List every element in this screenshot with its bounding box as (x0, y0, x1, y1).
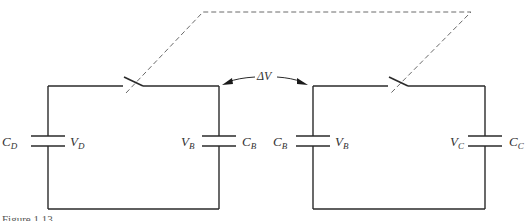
label-vc-sub: C (458, 141, 464, 151)
label-cb-left-sub: B (251, 141, 257, 151)
label-cb-left: CB (242, 135, 256, 151)
label-cc: CC (509, 135, 524, 151)
label-vd-symbol: V (70, 134, 78, 149)
label-vb-right-symbol: V (335, 134, 343, 149)
label-cb-right-sub: B (282, 141, 288, 151)
label-vd: VD (70, 135, 84, 151)
label-vc-symbol: V (450, 134, 458, 149)
label-vc: VC (450, 135, 464, 151)
label-vb-left-symbol: V (181, 134, 189, 149)
label-cb-left-symbol: C (242, 134, 251, 149)
label-cd-sub: D (11, 141, 18, 151)
delta-v-arrowhead-left-icon (222, 78, 233, 85)
figure-caption: Figure 1.13 (2, 214, 53, 221)
label-cc-sub: C (518, 141, 524, 151)
left-circuit (31, 77, 236, 209)
label-cb-right: CB (273, 135, 287, 151)
label-cc-symbol: C (509, 134, 518, 149)
label-vd-sub: D (78, 141, 85, 151)
label-vb-right-sub: B (343, 141, 349, 151)
label-vb-left: VB (181, 135, 194, 151)
label-vb-left-sub: B (189, 141, 195, 151)
delta-v-label: ΔV (257, 70, 271, 82)
circuit-diagram (0, 0, 527, 221)
delta-v-arrowhead-right-icon (297, 78, 308, 85)
label-cb-right-symbol: C (273, 134, 282, 149)
label-cd-symbol: C (2, 134, 11, 149)
label-vb-right: VB (335, 135, 348, 151)
right-circuit (296, 77, 502, 209)
label-cd: CD (2, 135, 17, 151)
delta-v-text: ΔV (257, 69, 271, 83)
